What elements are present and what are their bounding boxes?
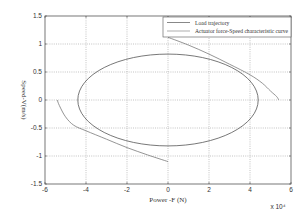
y-tick-label: 1.5	[33, 12, 42, 19]
y-tick-label: 1	[38, 40, 42, 47]
y-tick-label: -1	[36, 152, 42, 159]
x-tick-label: -4	[83, 186, 89, 193]
x-axis-ticks: -6-4-20246	[42, 16, 293, 193]
x-tick-label: 6	[289, 186, 293, 193]
x-axis-multiplier: x 10⁴	[270, 203, 285, 210]
y-tick-label: 0.5	[33, 68, 42, 75]
y-axis-label: Speed-V(m/s)	[20, 80, 28, 120]
characteristic-curve-segment	[57, 100, 168, 162]
x-tick-label: 4	[248, 186, 252, 193]
legend-label-load-trajectory: Load trajectory	[195, 20, 230, 26]
x-axis-label: Power -F (N)	[149, 196, 187, 204]
x-tick-label: 2	[207, 186, 211, 193]
y-tick-label: -1.5	[31, 180, 43, 187]
x-tick-label: 0	[166, 186, 170, 193]
x-tick-label: -2	[124, 186, 130, 193]
y-tick-label: 0	[38, 96, 42, 103]
x-tick-label: -6	[42, 186, 48, 193]
legend: Load trajectory Actuator force-Speed cha…	[163, 17, 291, 37]
legend-label-characteristic-curve: Actuator force-Speed characteristic curv…	[195, 28, 289, 34]
y-tick-label: -0.5	[31, 124, 43, 131]
characteristic-curve-segment	[168, 37, 279, 100]
chart: -6-4-20246 1.510.50-0.5-1-1.5 Power -F (…	[0, 0, 308, 216]
grid-lines	[45, 16, 291, 184]
